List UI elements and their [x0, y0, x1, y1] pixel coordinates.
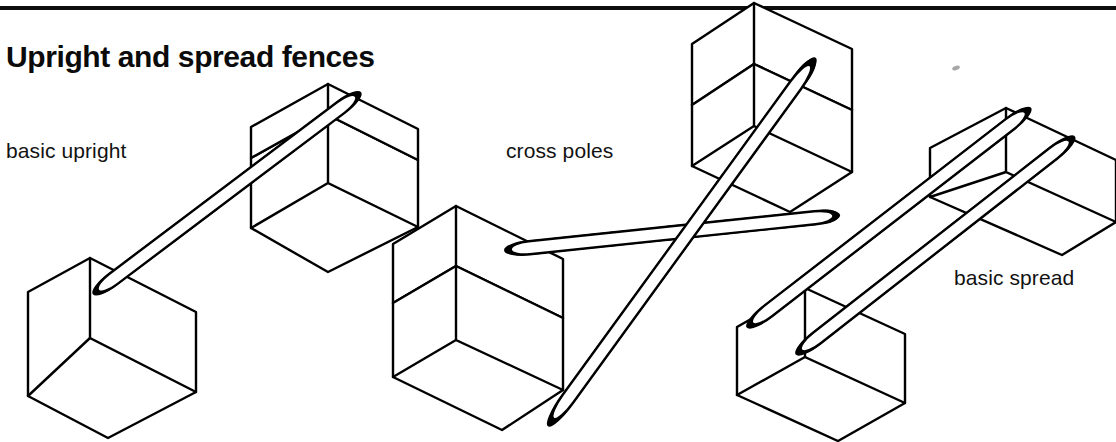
figure-basic-upright [28, 84, 418, 438]
diagram-page: Upright and spread fences basic upright … [0, 0, 1116, 442]
fence-illustrations: .bx { fill:#ffffff; stroke:#000000; stro… [0, 0, 1116, 442]
